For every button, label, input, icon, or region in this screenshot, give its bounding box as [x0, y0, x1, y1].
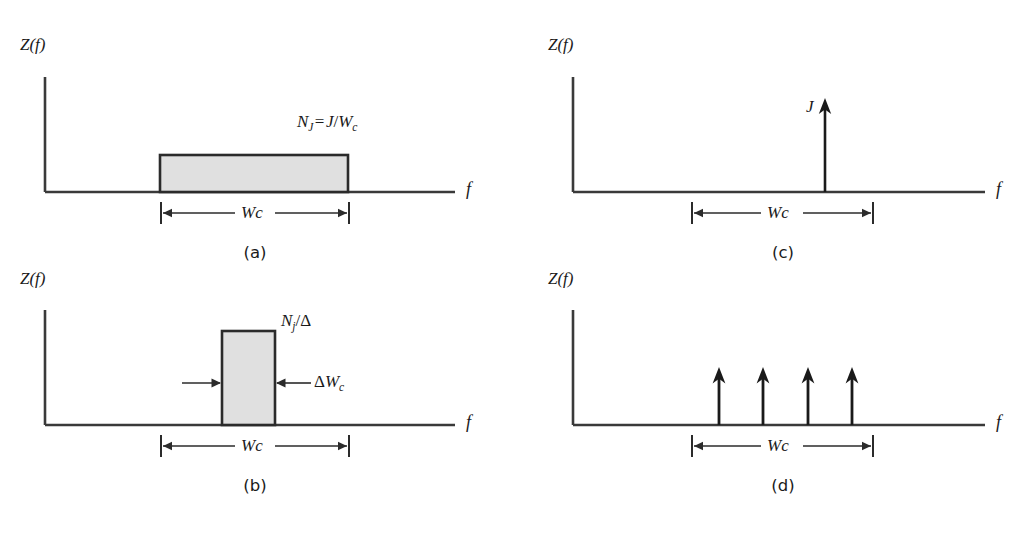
span-arrowhead-left	[163, 442, 172, 450]
span-label-wc: Wc	[762, 436, 794, 456]
panel-c: Z(f) f J Wc (c)	[515, 0, 1029, 269]
span-arrowhead-right	[338, 209, 347, 217]
panel-d: Z(f) f Wc (d)	[515, 270, 1029, 539]
x-axis-label: f	[466, 180, 471, 198]
x-axis-label: f	[466, 413, 471, 431]
psd-level-label: NJ = J/Wc	[297, 113, 357, 133]
x-axis-label: f	[996, 413, 1001, 431]
panel-b-graphic	[0, 270, 514, 539]
y-axis-label: Z(f)	[20, 270, 46, 287]
y-axis-label: Z(f)	[548, 36, 574, 53]
span-arrowhead-left	[694, 209, 703, 217]
partial-band-level-label: Nj/Δ	[281, 312, 311, 332]
panel-caption-a: (a)	[205, 243, 305, 262]
width-arrowhead-left	[212, 379, 222, 388]
partial-band-width-label: ΔWc	[314, 373, 344, 393]
span-label-wc: Wc	[236, 203, 268, 223]
span-label-wc: Wc	[762, 203, 794, 223]
jammer-psd-rectangle	[160, 155, 348, 192]
y-axis-label: Z(f)	[548, 270, 574, 287]
span-arrowhead-left	[694, 442, 703, 450]
panel-caption-c: (c)	[733, 243, 833, 262]
span-arrowhead-right	[862, 209, 871, 217]
panel-c-graphic	[515, 0, 1029, 269]
y-axis-label: Z(f)	[20, 36, 46, 53]
x-axis-label: f	[996, 180, 1001, 198]
span-label-wc: Wc	[236, 436, 268, 456]
tone-power-label: J	[806, 98, 814, 115]
span-arrowhead-left	[163, 209, 172, 217]
panel-caption-d: (d)	[733, 476, 833, 495]
partial-band-psd-rectangle	[222, 331, 275, 425]
span-arrowhead-right	[862, 442, 871, 450]
panel-caption-b: (b)	[205, 476, 305, 495]
panel-a-graphic	[0, 0, 514, 269]
impulse-train	[713, 367, 859, 425]
span-arrowhead-right	[338, 442, 347, 450]
panel-b: Z(f) f Nj/Δ ΔWc Wc (b)	[0, 270, 514, 539]
width-arrowhead-right	[276, 379, 286, 388]
panel-a: Z(f) f NJ = J/Wc Wc (a)	[0, 0, 514, 269]
figure-root: Z(f) f NJ = J/Wc Wc (a)	[0, 0, 1029, 539]
panel-d-graphic	[515, 270, 1029, 539]
